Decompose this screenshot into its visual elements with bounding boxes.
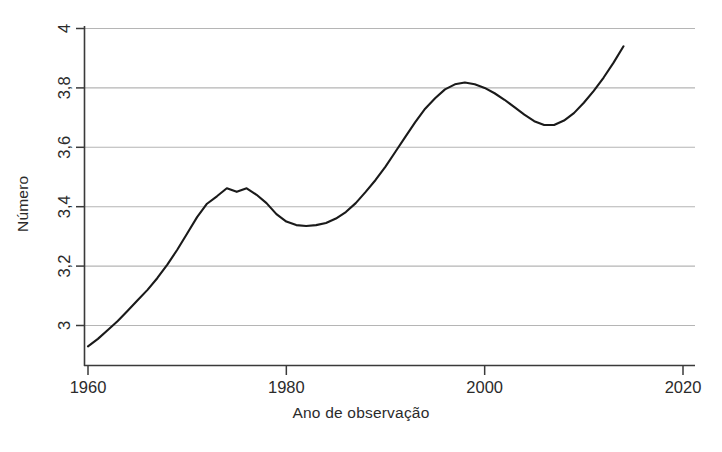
y-tick-label: 3 — [55, 321, 73, 330]
x-tick-label: 1980 — [268, 378, 305, 396]
gridlines-group — [85, 29, 695, 326]
y-tick-label: 3,4 — [55, 195, 73, 218]
chart-figure: 33,23,43,63,84 1960198020002020 Número A… — [0, 0, 722, 452]
x-tick-label: 2020 — [665, 378, 702, 396]
x-tick-label: 2000 — [466, 378, 503, 396]
y-ticks-group: 33,23,43,63,84 — [55, 24, 85, 330]
y-tick-label: 4 — [55, 24, 73, 33]
x-tick-label: 1960 — [70, 378, 107, 396]
y-axis-title: Número — [14, 176, 32, 232]
x-axis-title: Ano de observação — [0, 404, 722, 422]
chart-canvas: 33,23,43,63,84 1960198020002020 — [0, 0, 722, 452]
data-series-line — [88, 46, 624, 346]
y-tick-label: 3,2 — [55, 255, 73, 278]
y-tick-label: 3,6 — [55, 136, 73, 159]
y-tick-label: 3,8 — [55, 76, 73, 99]
x-ticks-group: 1960198020002020 — [70, 366, 702, 396]
